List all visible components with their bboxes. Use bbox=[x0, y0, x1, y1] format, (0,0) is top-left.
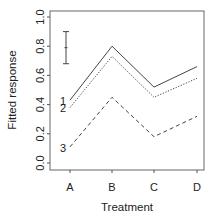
x-tick-label: B bbox=[108, 181, 115, 193]
x-tick-label: C bbox=[150, 181, 158, 193]
line-chart: 0.00.20.40.60.81.0 ABCD 123 Fitted respo… bbox=[0, 0, 215, 222]
error-bar bbox=[63, 32, 69, 64]
series-1-line bbox=[70, 46, 197, 100]
chart-container: 0.00.20.40.60.81.0 ABCD 123 Fitted respo… bbox=[0, 0, 215, 222]
series-3-label: 3 bbox=[60, 142, 66, 154]
y-axis-title: Fitted response bbox=[6, 50, 18, 129]
series-2-label: 2 bbox=[60, 102, 66, 114]
y-tick-label: 0.2 bbox=[34, 126, 46, 141]
x-axis-title: Treatment bbox=[101, 201, 154, 213]
y-axis: 0.00.20.40.60.81.0 bbox=[34, 9, 50, 170]
plot-frame bbox=[50, 11, 204, 170]
y-tick-label: 1.0 bbox=[34, 9, 46, 24]
y-tick-label: 0.0 bbox=[34, 155, 46, 170]
y-tick-label: 0.4 bbox=[34, 97, 46, 112]
y-tick-label: 0.8 bbox=[34, 39, 46, 54]
y-tick-label: 0.6 bbox=[34, 68, 46, 83]
series-2-line bbox=[70, 56, 197, 107]
series-3-line bbox=[70, 97, 197, 147]
x-tick-label: D bbox=[193, 181, 201, 193]
x-axis: ABCD bbox=[66, 170, 201, 193]
x-tick-label: A bbox=[66, 181, 74, 193]
series-group: 123 bbox=[60, 46, 197, 154]
